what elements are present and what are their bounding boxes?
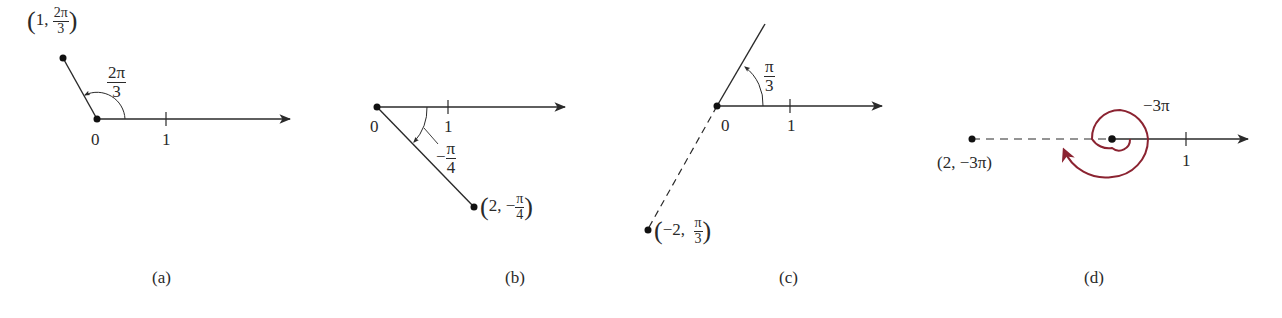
point-label-a: (1, 2π3) [27, 6, 77, 36]
tick-label-c: 1 [787, 117, 796, 134]
dashed-ray [648, 106, 717, 229]
pole-dot [714, 103, 721, 110]
tick-label-b: 1 [444, 118, 453, 135]
point-dot [471, 204, 478, 211]
origin-label-b: 0 [370, 118, 379, 135]
angle-label-d: −3π [1143, 97, 1170, 114]
angle-label-a: 2π3 [107, 64, 126, 101]
angle-arc [745, 67, 763, 106]
pole-dot [94, 116, 101, 123]
point-dot [645, 227, 652, 234]
point-label-d: (2, −3π) [937, 154, 992, 171]
angle-label-b: −π4 [436, 140, 456, 177]
point-label-b: (2, −π4) [480, 192, 533, 222]
ray [63, 58, 97, 119]
angle-arc [414, 107, 427, 142]
panel-c [645, 24, 883, 234]
point-label-c: (−2, π3) [654, 216, 711, 246]
angle-label-c: π3 [764, 58, 775, 95]
point-dot [60, 55, 67, 62]
panel-d [969, 110, 1249, 177]
origin-label-c: 0 [721, 117, 730, 134]
caption-a: (a) [152, 268, 171, 288]
caption-c: (c) [779, 268, 798, 288]
origin-label-a: 0 [91, 131, 100, 148]
point-dot [969, 136, 976, 143]
caption-d: (d) [1084, 268, 1104, 288]
ray [717, 24, 765, 106]
panel-a [60, 55, 291, 127]
tick-label-a: 1 [162, 131, 171, 148]
pole-dot [374, 104, 381, 111]
pole-dot [1108, 135, 1116, 143]
panel-b [374, 100, 566, 211]
caption-b: (b) [505, 268, 525, 288]
tick-label-d: 1 [1182, 152, 1191, 169]
spiral-angle [1064, 110, 1148, 177]
